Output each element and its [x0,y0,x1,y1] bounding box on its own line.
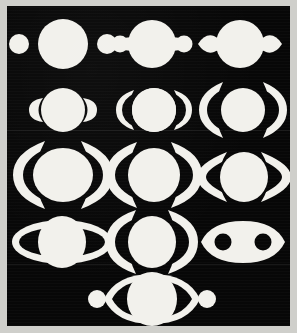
figure-5-globe-with-crescent-ansae: Globe with two crescent ansae curving ou… [104,78,204,142]
plate-frame: Tricorporeal Saturn with two detached ro… [0,0,297,333]
figure-9-globe-flat-open-ring: Globe with flattened open ring ellipse [193,146,290,208]
figure-4-globe-with-short-ansae: Globe with two short blunt ansae touchin… [15,80,111,140]
figure-8-globe-narrow-rings: Globe with narrower ring arms and dark g… [101,137,207,213]
figure-13-globe-lens-ring-satellites: Globe within thin lens ring with two det… [87,268,217,326]
saturn-appearances-plate: Tricorporeal Saturn with two detached ro… [7,6,290,326]
figure-12-lens-with-holes: Solid lens body pierced by two dark ring… [197,216,289,268]
figure-3-globe-with-teardrops: Globe with two detached teardrop ansae [189,6,290,84]
figure-6-globe-with-tall-ansae: Globe with tall crescent ansae nearly en… [193,76,290,144]
